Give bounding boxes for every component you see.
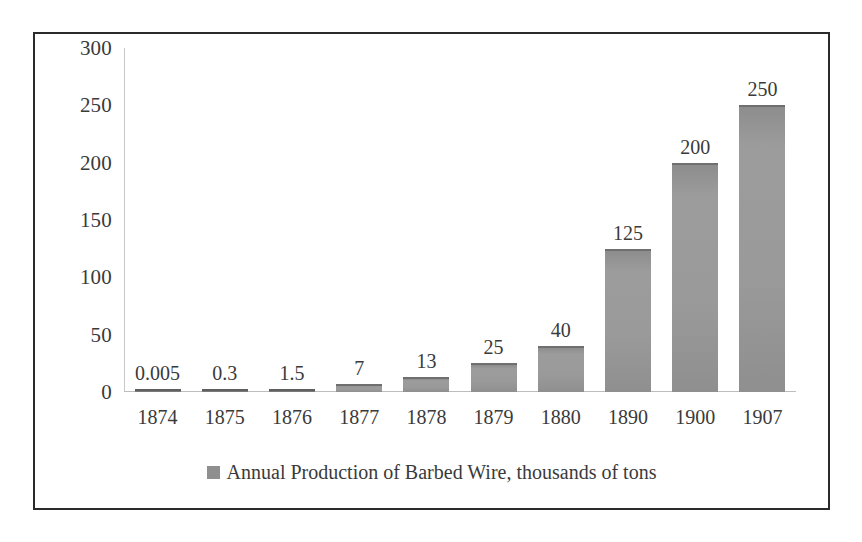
x-axis-tick-label: 1879 [474, 406, 514, 429]
bar-group: 0.0051874 [124, 48, 191, 392]
y-axis-tick-label: 150 [80, 208, 112, 233]
y-axis-tick-label: 200 [80, 150, 112, 175]
bar-group: 131878 [393, 48, 460, 392]
bar-value-label: 40 [551, 319, 571, 342]
bar-value-label: 25 [484, 336, 504, 359]
x-axis-tick-label: 1876 [272, 406, 312, 429]
x-axis-tick-label: 1880 [541, 406, 581, 429]
bar[interactable]: 0.005 [135, 389, 181, 392]
x-axis-tick-label: 1900 [675, 406, 715, 429]
bar[interactable]: 0.3 [202, 389, 248, 392]
bar-group: 2001900 [662, 48, 729, 392]
bar-group: 2501907 [729, 48, 796, 392]
chart-legend: Annual Production of Barbed Wire, thousa… [35, 461, 828, 484]
bar[interactable]: 125 [605, 249, 651, 392]
bar[interactable]: 40 [538, 346, 584, 392]
plot-area: 050100150200250300 0.00518740.318751.518… [124, 48, 796, 392]
bar-value-label: 13 [416, 350, 436, 373]
bar-value-label: 0.3 [212, 362, 237, 385]
x-axis-tick-label: 1907 [742, 406, 782, 429]
chart-figure: 050100150200250300 0.00518740.318751.518… [33, 32, 830, 510]
bar-group: 71877 [326, 48, 393, 392]
bar-value-label: 200 [680, 136, 710, 159]
bar-value-label: 1.5 [279, 362, 304, 385]
y-axis-tick-label: 0 [101, 380, 112, 405]
y-axis-tick-label: 250 [80, 93, 112, 118]
bar-group: 0.31875 [191, 48, 258, 392]
y-axis-tick-label: 300 [80, 36, 112, 61]
bar[interactable]: 25 [471, 363, 517, 392]
bar[interactable]: 250 [739, 105, 785, 392]
x-axis-tick-label: 1877 [339, 406, 379, 429]
bar[interactable]: 1.5 [269, 389, 315, 392]
bar-group: 1.51876 [258, 48, 325, 392]
bar-group: 401880 [527, 48, 594, 392]
bar[interactable]: 7 [336, 384, 382, 392]
y-axis-tick-label: 100 [80, 265, 112, 290]
bar[interactable]: 13 [403, 377, 449, 392]
bar-value-label: 250 [747, 78, 777, 101]
bar-value-label: 0.005 [135, 362, 180, 385]
bar-value-label: 7 [354, 357, 364, 380]
x-axis-tick-label: 1875 [205, 406, 245, 429]
x-axis-tick-label: 1874 [138, 406, 178, 429]
y-axis-tick-label: 50 [91, 322, 112, 347]
bar-group: 251879 [460, 48, 527, 392]
bar-group: 1251890 [594, 48, 661, 392]
legend-label: Annual Production of Barbed Wire, thousa… [227, 461, 657, 484]
x-axis-tick-label: 1890 [608, 406, 648, 429]
x-axis-tick-label: 1878 [406, 406, 446, 429]
bar[interactable]: 200 [672, 163, 718, 392]
bar-value-label: 125 [613, 222, 643, 245]
legend-color-swatch [207, 466, 220, 479]
